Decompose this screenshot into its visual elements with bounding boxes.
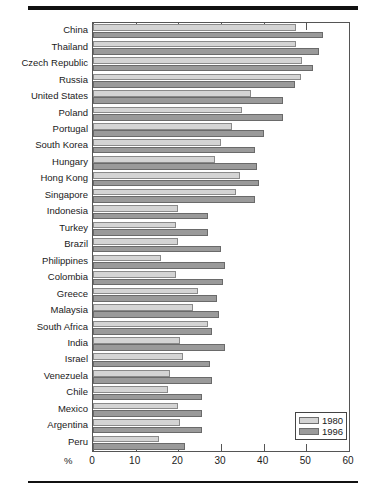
bar-1996: [93, 246, 221, 253]
bar-1996: [93, 328, 212, 335]
category-label: Colombia: [0, 272, 88, 282]
bar-1996: [93, 311, 219, 318]
bar-row: [93, 205, 349, 219]
category-label: Singapore: [0, 190, 88, 200]
value-axis-tick-label: 20: [172, 455, 183, 467]
category-label: China: [0, 25, 88, 35]
bar-1996: [93, 130, 264, 137]
bar-1996: [93, 377, 212, 384]
bar-1996: [93, 295, 217, 302]
value-axis-tick-label: 60: [342, 455, 353, 467]
value-axis-tick-label: 0: [89, 455, 95, 467]
bar-1980: [93, 41, 296, 48]
value-axis-labels: 0102030405060: [0, 455, 367, 469]
bar-1980: [93, 222, 176, 229]
bar-rows: [93, 23, 349, 451]
bar-1996: [93, 344, 225, 351]
bar-1996: [93, 262, 225, 269]
bar-row: [93, 139, 349, 153]
category-label: Israel: [0, 354, 88, 364]
category-label: Brazil: [0, 239, 88, 249]
bar-1980: [93, 189, 236, 196]
bar-1980: [93, 74, 301, 81]
bar-row: [93, 337, 349, 351]
category-label: Turkey: [0, 223, 88, 233]
bar-1980: [93, 304, 193, 311]
bar-1980: [93, 403, 178, 410]
bar-1996: [93, 65, 313, 72]
category-label: India: [0, 338, 88, 348]
category-label: Hungary: [0, 157, 88, 167]
category-label: South Africa: [0, 322, 88, 332]
category-label: Portugal: [0, 124, 88, 134]
category-label: Mexico: [0, 404, 88, 414]
bar-1980: [93, 271, 176, 278]
bar-1996: [93, 229, 208, 236]
category-label: Hong Kong: [0, 173, 88, 183]
bar-1996: [93, 213, 208, 220]
bar-1996: [93, 180, 259, 187]
category-label: Chile: [0, 387, 88, 397]
bar-1980: [93, 255, 161, 262]
category-label: Greece: [0, 289, 88, 299]
category-label: Peru: [0, 437, 88, 447]
bar-row: [93, 353, 349, 367]
legend-swatch-1996: [299, 428, 319, 435]
bar-1980: [93, 205, 178, 212]
value-axis-tick-label: 40: [257, 455, 268, 467]
value-axis-tick-label: 30: [214, 455, 225, 467]
bar-1996: [93, 114, 283, 121]
bar-1980: [93, 107, 242, 114]
top-rule: [28, 6, 358, 10]
bar-1980: [93, 370, 170, 377]
chart-legend: 1980 1996: [295, 412, 347, 440]
plot-area: [92, 22, 350, 452]
category-label: United States: [0, 91, 88, 101]
bar-row: [93, 321, 349, 335]
bar-chart-figure: ChinaThailandCzech RepublicRussiaUnited …: [0, 0, 367, 492]
bar-row: [93, 107, 349, 121]
bar-1980: [93, 57, 302, 64]
bar-1996: [93, 163, 257, 170]
legend-item-1980: 1980: [299, 415, 343, 426]
bar-1980: [93, 24, 296, 31]
bar-row: [93, 74, 349, 88]
bar-row: [93, 386, 349, 400]
bar-1980: [93, 123, 232, 130]
bar-1996: [93, 48, 319, 55]
category-label: Malaysia: [0, 305, 88, 315]
category-label: South Korea: [0, 140, 88, 150]
bar-1996: [93, 279, 223, 286]
bar-row: [93, 271, 349, 285]
bar-row: [93, 238, 349, 252]
bar-row: [93, 123, 349, 137]
bar-1996: [93, 32, 323, 39]
bar-row: [93, 255, 349, 269]
bar-1996: [93, 147, 255, 154]
bar-1980: [93, 288, 198, 295]
axis-tick-top: [349, 23, 350, 30]
bar-1980: [93, 139, 221, 146]
bar-1980: [93, 386, 168, 393]
bar-1996: [93, 410, 202, 417]
bar-1980: [93, 337, 180, 344]
category-label: Philippines: [0, 256, 88, 266]
bar-1980: [93, 419, 180, 426]
category-label: Russia: [0, 75, 88, 85]
bar-1980: [93, 90, 251, 97]
category-label: Poland: [0, 108, 88, 118]
legend-label-1980: 1980: [322, 416, 343, 426]
legend-swatch-1980: [299, 417, 319, 424]
bar-1980: [93, 436, 159, 443]
bar-row: [93, 288, 349, 302]
bar-1996: [93, 394, 202, 401]
bar-row: [93, 57, 349, 71]
value-axis-tick-label: 50: [300, 455, 311, 467]
bar-1996: [93, 81, 295, 88]
bar-row: [93, 41, 349, 55]
bar-row: [93, 304, 349, 318]
category-label: Czech Republic: [0, 58, 88, 68]
category-label: Thailand: [0, 42, 88, 52]
legend-label-1996: 1996: [322, 427, 343, 437]
bar-1996: [93, 427, 202, 434]
